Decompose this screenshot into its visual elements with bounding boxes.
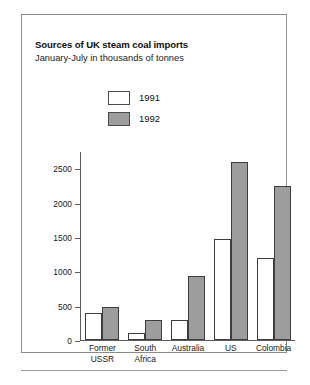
bar-group xyxy=(81,152,124,340)
bar-group xyxy=(209,152,252,340)
legend-label-1991: 1991 xyxy=(139,92,160,103)
x-axis-label: SouthAfrica xyxy=(124,343,167,364)
gray-swatch-icon xyxy=(108,112,130,126)
bar-1991 xyxy=(257,258,274,340)
legend-item-1992: 1992 xyxy=(108,110,160,127)
plot-area: 05001000150020002500 xyxy=(80,152,295,341)
title-block: Sources of UK steam coal imports January… xyxy=(35,39,275,65)
y-tick-label: 0 xyxy=(67,336,72,346)
x-axis-labels: FormerUSSRSouthAfricaAustraliaUSColombia xyxy=(81,343,295,364)
bar-group xyxy=(124,152,167,340)
bar-group xyxy=(252,152,295,340)
white-swatch-icon xyxy=(108,91,130,105)
bar-group-container xyxy=(81,152,295,340)
bar-1991 xyxy=(171,320,188,341)
legend-item-1991: 1991 xyxy=(108,89,160,106)
y-tick-label: 1500 xyxy=(53,233,72,243)
x-axis-label: FormerUSSR xyxy=(81,343,124,364)
y-tick-label: 1000 xyxy=(53,267,72,277)
y-tick-label: 500 xyxy=(58,302,72,312)
y-tick xyxy=(75,307,80,308)
footer-divider xyxy=(21,370,287,371)
y-tick xyxy=(75,204,80,205)
bar-1992 xyxy=(102,307,119,340)
bar-1992 xyxy=(274,186,291,340)
bar-1992 xyxy=(231,162,248,340)
y-tick xyxy=(75,272,80,273)
chart-legend: 1991 1992 xyxy=(108,89,160,131)
bar-1991 xyxy=(85,313,102,340)
x-axis-label: Australia xyxy=(167,343,210,364)
bar-group xyxy=(167,152,210,340)
y-tick-label: 2000 xyxy=(53,199,72,209)
chart-panel: Sources of UK steam coal imports January… xyxy=(21,14,287,353)
bar-1992 xyxy=(188,276,205,340)
page-title: Sources of UK steam coal imports xyxy=(35,39,275,51)
y-tick xyxy=(75,341,80,342)
chart-page: Sources of UK steam coal imports January… xyxy=(0,0,310,385)
bar-1991 xyxy=(128,333,145,340)
x-axis-label: Colombia xyxy=(252,343,295,364)
bar-1991 xyxy=(214,239,231,340)
x-axis-label: US xyxy=(209,343,252,364)
x-axis xyxy=(80,340,295,341)
y-tick-label: 2500 xyxy=(53,164,72,174)
legend-label-1992: 1992 xyxy=(139,113,160,124)
bar-1992 xyxy=(145,320,162,341)
y-tick xyxy=(75,238,80,239)
chart-subtitle: January-July in thousands of tonnes xyxy=(35,52,275,65)
y-tick xyxy=(75,169,80,170)
